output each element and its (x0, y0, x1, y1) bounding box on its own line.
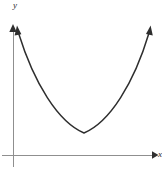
y-axis-label: y (13, 1, 17, 10)
x-axis-label: x (158, 150, 162, 159)
curve-right-arrowhead-icon (146, 26, 153, 36)
graph-canvas (0, 0, 162, 169)
y-axis-arrowhead-icon (9, 24, 16, 32)
parabola-figure: y x (0, 0, 162, 169)
parabola-curve (19, 33, 150, 133)
